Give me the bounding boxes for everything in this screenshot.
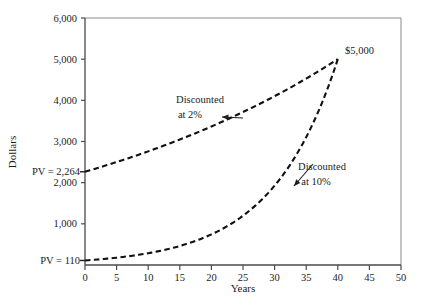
endpoint-value-label: $5,000 (345, 45, 374, 56)
x-tick-label-50: 50 (396, 272, 407, 283)
y-tick-label-5000: 5,000 (53, 54, 77, 65)
annotation-2-percent-line2: at 2% (178, 109, 202, 120)
chart-svg: 1,0002,0003,0004,0005,0006,000 051015202… (0, 0, 428, 305)
x-tick-label-15: 15 (175, 272, 186, 283)
y-tick-label-1000: 1,000 (53, 218, 77, 229)
x-tick-label-10: 10 (143, 272, 154, 283)
x-tick-label-20: 20 (206, 272, 217, 283)
x-axis-title: Years (231, 282, 256, 294)
x-tick-label-35: 35 (301, 272, 312, 283)
y-axis-title: Dollars (6, 136, 18, 168)
annotation-10-percent-line1: Discounted (298, 161, 347, 172)
y-tick-label-4000: 4,000 (53, 95, 77, 106)
annotation-2-percent-line1: Discounted (176, 94, 225, 105)
x-tick-label-45: 45 (364, 272, 375, 283)
pv-label-10-percent: PV = 110 (40, 255, 80, 266)
pv-label-2-percent: PV = 2,264 (32, 166, 81, 177)
annotation-10-percent-line2: at 10% (301, 176, 331, 187)
y-tick-label-3000: 3,000 (53, 136, 77, 147)
y-tick-label-6000: 6,000 (53, 13, 77, 24)
present-value-chart: 1,0002,0003,0004,0005,0006,000 051015202… (0, 0, 428, 305)
x-tick-label-40: 40 (333, 272, 344, 283)
x-tick-label-0: 0 (82, 272, 87, 283)
y-tick-label-2000: 2,000 (53, 177, 77, 188)
x-tick-label-5: 5 (114, 272, 119, 283)
x-tick-label-30: 30 (269, 272, 280, 283)
